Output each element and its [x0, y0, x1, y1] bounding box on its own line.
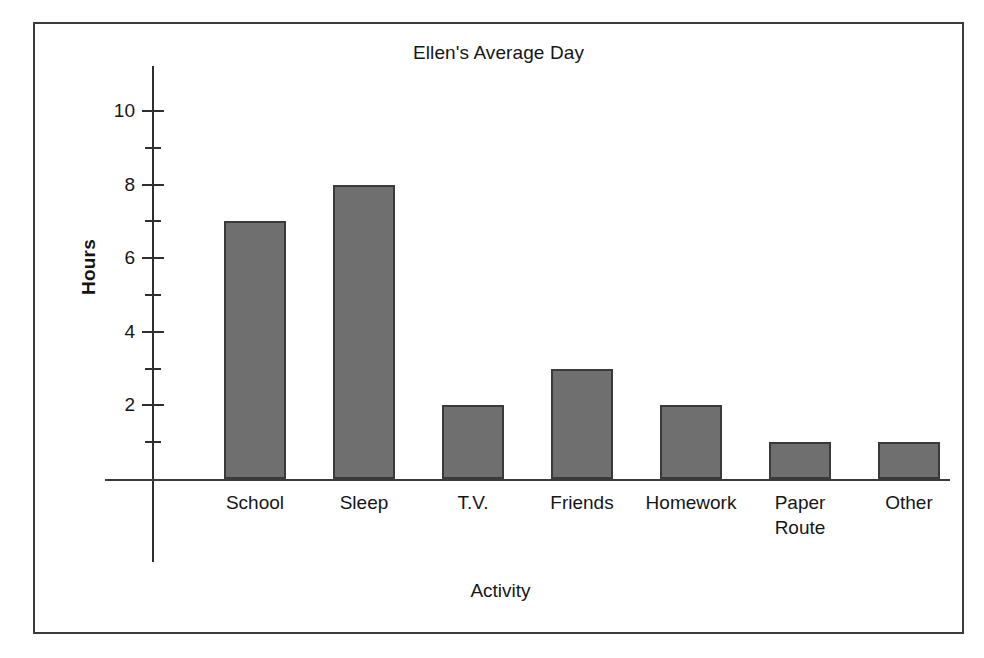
chart-page: Ellen's Average Day 246810 Hours SchoolS…	[0, 0, 984, 658]
y-tick-major	[142, 404, 164, 406]
y-tick-major	[142, 110, 164, 112]
x-category-label: Other	[855, 490, 964, 515]
y-tick-label: 10	[95, 101, 135, 120]
y-tick-minor	[145, 294, 161, 296]
x-category-label: Homework	[637, 490, 746, 515]
y-tick-major	[142, 257, 164, 259]
x-category-label: Sleep	[310, 490, 419, 515]
figure-frame: Ellen's Average Day 246810 Hours SchoolS…	[33, 22, 964, 634]
y-tick-major	[142, 331, 164, 333]
x-category-label: Friends	[528, 490, 637, 515]
y-tick-label: 6	[95, 248, 135, 267]
bar	[769, 442, 831, 479]
x-category-label: Paper Route	[746, 490, 855, 540]
y-tick-label: 8	[95, 175, 135, 194]
x-category-label: T.V.	[419, 490, 528, 515]
x-axis-title: Activity	[35, 580, 966, 602]
y-tick-major	[142, 184, 164, 186]
y-axis-line	[152, 66, 154, 562]
x-category-label: School	[201, 490, 310, 515]
bar	[333, 185, 395, 479]
y-tick-minor	[145, 147, 161, 149]
bar	[551, 369, 613, 479]
bar	[660, 405, 722, 479]
y-tick-label: 4	[95, 322, 135, 341]
y-axis-title: Hours	[78, 207, 100, 327]
y-tick-minor	[145, 220, 161, 222]
y-tick-minor	[145, 441, 161, 443]
y-tick-minor	[145, 368, 161, 370]
y-tick-label: 2	[95, 395, 135, 414]
bar	[442, 405, 504, 479]
x-axis-line	[105, 479, 950, 481]
bar	[878, 442, 940, 479]
plot-area: 246810 Hours SchoolSleepT.V.FriendsHomew…	[35, 24, 966, 636]
bar	[224, 221, 286, 479]
